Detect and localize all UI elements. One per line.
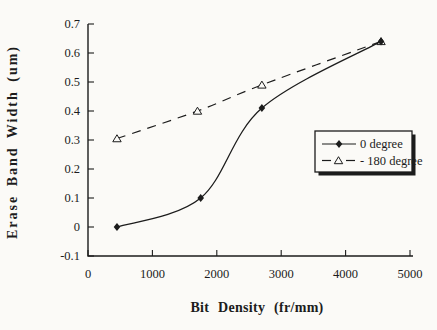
y-tick-label: 0.5 [64, 75, 80, 89]
data-point-marker-triangle [113, 135, 121, 142]
y-tick-label: 0.4 [64, 104, 80, 118]
y-tick-label: 0.3 [64, 133, 80, 147]
legend-label-0-degree: 0 degree [360, 137, 403, 151]
data-point-marker-triangle [193, 107, 201, 114]
legend-label-180-degree: - 180 degree [360, 154, 423, 168]
chart-canvas: -0.100.10.20.30.40.50.60.701000200030004… [0, 0, 437, 330]
legend: 0 degree- 180 degree [315, 131, 423, 176]
y-tick-label: 0 [74, 220, 80, 234]
y-tick-label: 0.1 [64, 191, 80, 205]
x-tick-label: 1000 [140, 267, 165, 281]
x-tick-label: 4000 [333, 267, 358, 281]
data-point-marker-triangle [258, 81, 266, 88]
data-point-marker-diamond [114, 223, 121, 231]
y-axis-title: Erase Band Width (um) [5, 45, 21, 239]
x-tick-label: 2000 [204, 267, 229, 281]
x-tick-label: 0 [85, 267, 91, 281]
y-tick-label: -0.1 [60, 249, 80, 263]
x-tick-label: 5000 [398, 267, 423, 281]
x-tick-label: 3000 [269, 267, 294, 281]
y-tick-label: 0.7 [64, 17, 80, 31]
y-tick-label: 0.2 [64, 162, 80, 176]
plot-area: -0.100.10.20.30.40.50.60.701000200030004… [60, 17, 423, 281]
series-line-180-degree [117, 41, 381, 138]
y-tick-label: 0.6 [64, 46, 80, 60]
x-axis-title: Bit Density (fr/mm) [190, 300, 323, 316]
erase-band-width-chart: -0.100.10.20.30.40.50.60.701000200030004… [0, 0, 437, 330]
